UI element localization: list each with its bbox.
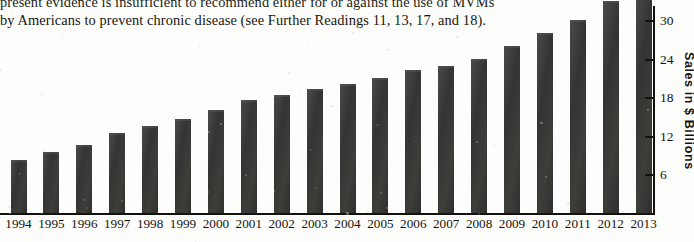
paper-speckle [476, 141, 478, 143]
bar-2007 [438, 66, 454, 213]
paper-speckle [619, 17, 620, 18]
paper-speckle [346, 212, 348, 214]
bar-2008 [471, 59, 487, 213]
x-tick-label-2009: 2009 [499, 216, 525, 232]
paper-speckle [171, 82, 172, 83]
paper-speckle [8, 206, 11, 209]
y-tick-label-18: 18 [660, 90, 674, 106]
y-tick-label-6: 6 [660, 167, 667, 183]
bar-2000 [208, 110, 224, 213]
bar-1994 [11, 160, 27, 213]
bar-2011 [570, 20, 586, 213]
paper-speckle [273, 81, 274, 82]
bar-2004 [340, 84, 356, 213]
x-tick-label-1999: 1999 [170, 216, 196, 232]
y-tick-label-30: 30 [660, 13, 674, 29]
paper-speckle [387, 49, 389, 51]
y-axis-line [653, 6, 655, 215]
paper-speckle [376, 124, 378, 126]
paper-speckle [516, 217, 518, 219]
bar-1995 [43, 152, 59, 213]
paper-speckle [9, 213, 10, 214]
bar-2002 [274, 95, 290, 213]
x-tick-label-1998: 1998 [137, 216, 163, 232]
paper-speckle [567, 202, 569, 204]
paper-speckle [398, 57, 400, 59]
y-axis-label: Sales in $ Billions [677, 52, 694, 170]
y-tick-12 [645, 136, 654, 138]
y-tick-24 [645, 59, 654, 61]
paper-speckle [545, 176, 547, 178]
paper-speckle [540, 224, 542, 226]
x-tick-label-2008: 2008 [466, 216, 492, 232]
paper-speckle [152, 15, 153, 16]
paper-speckle [208, 131, 210, 133]
x-tick-label-1995: 1995 [38, 216, 64, 232]
bar-1996 [76, 145, 92, 213]
paper-speckle [245, 174, 247, 176]
bar-2009 [504, 46, 520, 213]
x-tick-label-1997: 1997 [104, 216, 130, 232]
x-tick-label-2000: 2000 [203, 216, 229, 232]
x-axis-labels: 1994199519961997199819992000200120022003… [0, 216, 652, 240]
paper-speckle [97, 63, 100, 66]
bar-2010 [537, 33, 553, 213]
paper-speckle [685, 76, 686, 77]
x-tick-label-2007: 2007 [433, 216, 459, 232]
x-tick-label-2011: 2011 [565, 216, 591, 232]
paper-speckle [647, 109, 649, 111]
x-tick-label-1996: 1996 [71, 216, 97, 232]
bar-2006 [405, 70, 421, 213]
x-tick-label-2001: 2001 [236, 216, 262, 232]
x-tick-label-2003: 2003 [301, 216, 327, 232]
y-tick-label-12: 12 [660, 129, 674, 145]
y-tick-label-24: 24 [660, 52, 674, 68]
paper-speckle [173, 116, 175, 118]
x-axis-line [0, 213, 655, 215]
x-tick-label-2012: 2012 [598, 216, 624, 232]
paper-speckle [415, 141, 416, 142]
paper-speckle [637, 221, 639, 223]
paper-speckle [504, 180, 505, 181]
paper-speckle [86, 207, 88, 209]
paper-speckle [19, 173, 20, 174]
bar-2003 [307, 89, 323, 213]
x-tick-label-2004: 2004 [334, 216, 360, 232]
paper-speckle [41, 93, 44, 96]
x-tick-label-2010: 2010 [532, 216, 558, 232]
y-tick-6 [645, 174, 654, 176]
paper-speckle [406, 215, 408, 217]
bar-2013 [636, 0, 652, 213]
paper-speckle [352, 32, 354, 34]
paper-speckle [684, 128, 686, 130]
y-tick-30 [645, 20, 654, 22]
paper-speckle [468, 224, 469, 225]
bar-2012 [603, 1, 619, 213]
bar-1999 [175, 119, 191, 213]
x-tick-label-1994: 1994 [5, 216, 31, 232]
paper-speckle [198, 45, 200, 47]
x-tick-label-2002: 2002 [269, 216, 295, 232]
bar-1998 [142, 126, 158, 213]
y-tick-18 [645, 97, 654, 99]
x-tick-label-2006: 2006 [400, 216, 426, 232]
bar-2001 [241, 100, 257, 213]
figure-page: present evidence is insufficient to reco… [0, 0, 694, 242]
x-tick-label-2005: 2005 [367, 216, 393, 232]
paper-speckle [121, 200, 123, 202]
paper-speckle [380, 192, 382, 194]
plot-area [0, 0, 652, 214]
paper-speckle [41, 212, 43, 214]
bar-1997 [109, 133, 125, 213]
paper-speckle [532, 142, 534, 144]
x-tick-label-2013: 2013 [630, 216, 656, 232]
paper-speckle [330, 105, 332, 107]
paper-speckle [191, 148, 193, 150]
paper-speckle [0, 69, 2, 71]
paper-speckle [61, 37, 63, 39]
bar-chart: 612182430 Sales in $ Billions 1994199519… [0, 0, 694, 242]
